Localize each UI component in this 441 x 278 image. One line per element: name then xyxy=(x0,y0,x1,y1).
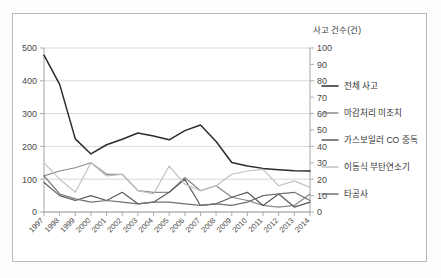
x-tick-label: 2012 xyxy=(262,216,280,234)
y-tick-label-right: 60 xyxy=(317,109,327,119)
secondary-axis-title: 사고 건수(건) xyxy=(313,25,361,35)
legend-label-4: 타공사 xyxy=(344,189,368,199)
legend-label-3: 이동식 부탄연소기 xyxy=(344,162,410,172)
chart-figure: 01002003004005000102030405060708090100사고… xyxy=(0,0,441,278)
y-tick-label-right: 10 xyxy=(317,191,327,201)
x-tick-label: 2002 xyxy=(105,216,123,234)
x-tick-label: 2004 xyxy=(137,216,155,234)
y-tick-label-right: 100 xyxy=(317,43,332,53)
x-tick-label: 2003 xyxy=(121,216,139,234)
line-chart: 01002003004005000102030405060708090100사고… xyxy=(0,0,441,278)
x-tick-label: 2009 xyxy=(215,216,233,234)
x-tick-label: 2011 xyxy=(247,216,265,234)
legend-label-2: 가스보일러 CO 중독 xyxy=(344,135,418,145)
y-tick-label-right: 50 xyxy=(317,125,327,135)
y-tick-label-right: 70 xyxy=(317,93,327,103)
legend-label-0: 전체 사고 xyxy=(344,81,378,91)
y-tick-label-right: 40 xyxy=(317,142,327,152)
x-tick-label: 2014 xyxy=(293,216,311,234)
y-tick-label-right: 20 xyxy=(317,175,327,185)
x-tick-label: 1999 xyxy=(58,216,76,234)
y-tick-label-right: 90 xyxy=(317,60,327,70)
y-tick-label-left: 200 xyxy=(22,142,37,152)
y-tick-label-left: 100 xyxy=(22,175,37,185)
x-tick-label: 2013 xyxy=(277,216,295,234)
y-tick-label-left: 0 xyxy=(32,207,37,217)
y-tick-label-right: 80 xyxy=(317,76,327,86)
x-tick-label: 1997 xyxy=(27,216,45,234)
x-tick-label: 2001 xyxy=(90,216,108,234)
y-tick-label-left: 500 xyxy=(22,43,37,53)
y-tick-label-right: 0 xyxy=(317,207,322,217)
x-tick-label: 2006 xyxy=(168,216,186,234)
series-line-0 xyxy=(44,55,310,171)
x-tick-label: 2010 xyxy=(231,216,249,234)
x-tick-label: 2008 xyxy=(199,216,217,234)
x-tick-label: 2007 xyxy=(184,216,202,234)
y-tick-label-left: 400 xyxy=(22,76,37,86)
y-tick-label-left: 300 xyxy=(22,109,37,119)
x-tick-label: 2005 xyxy=(152,216,170,234)
x-tick-label: 2000 xyxy=(74,216,92,234)
series-line-3 xyxy=(44,163,310,194)
legend-label-1: 마감처리 미조치 xyxy=(344,107,402,118)
x-tick-label: 1998 xyxy=(43,216,61,234)
